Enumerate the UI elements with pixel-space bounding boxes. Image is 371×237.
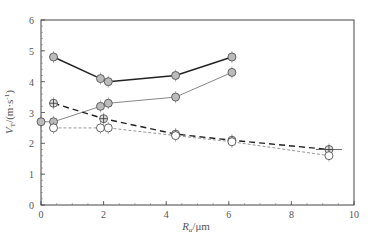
data-point-marker [50,53,58,61]
plot-series [37,51,342,162]
x-tick-label: 4 [164,209,169,220]
x-tick-label: 2 [101,209,106,220]
x-tick-label: 0 [39,209,44,220]
axes: 01234560246810 [29,15,359,220]
series-2 [37,66,236,127]
y-tick-label: 4 [29,77,34,88]
data-point-marker [172,93,180,101]
data-point-marker [37,118,45,126]
x-tick-label: 8 [289,209,294,220]
data-point-marker [325,152,333,160]
data-point-marker [104,99,112,107]
series-line [54,57,232,82]
data-point-marker [96,75,104,83]
series-4 [50,122,333,162]
data-point-marker [228,53,236,61]
data-point-marker [104,124,112,132]
line-chart: 01234560246810 Ra/μm VT/(m·s-1) [0,0,371,237]
data-point-marker [228,138,236,146]
x-axis-label: Ra/μm [181,220,210,234]
y-tick-label: 1 [29,169,34,180]
x-tick-label: 10 [349,209,359,220]
y-tick-label: 3 [29,108,34,119]
data-point-marker [104,78,112,86]
series-1 [50,51,236,88]
y-tick-label: 5 [29,46,34,57]
data-point-marker [228,68,236,76]
data-point-marker [96,102,104,110]
y-axis-label: VT/(m·s-1) [3,90,17,134]
series-line [54,128,329,156]
series-line [41,72,232,121]
y-tick-label: 2 [29,138,34,149]
data-point-marker [96,124,104,132]
data-point-marker [172,132,180,140]
series-line [54,103,329,149]
series-3 [50,97,333,155]
plot-frame [41,20,354,205]
data-point-marker [50,124,58,132]
y-tick-label: 0 [29,200,34,211]
x-tick-label: 6 [226,209,231,220]
y-tick-label: 6 [29,15,34,26]
data-point-marker [172,72,180,80]
